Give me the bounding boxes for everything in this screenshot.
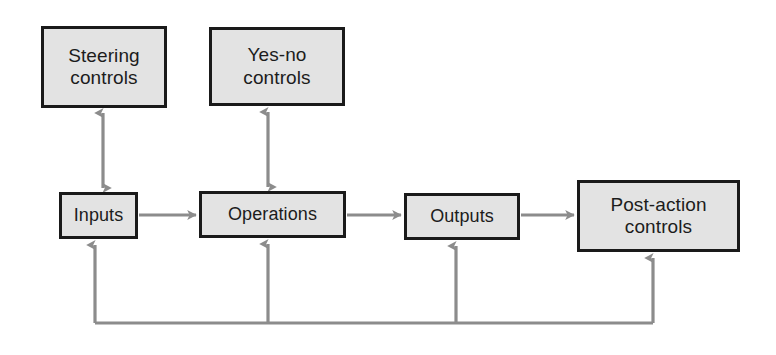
flow-diagram: Steering controls Yes-no controls Inputs… <box>0 0 776 355</box>
node-steering-controls[interactable]: Steering controls <box>41 26 167 108</box>
node-yes-no-controls-label: Yes-no controls <box>239 44 314 89</box>
node-outputs[interactable]: Outputs <box>404 193 520 240</box>
node-steering-controls-label: Steering controls <box>64 45 144 90</box>
node-inputs-label: Inputs <box>70 205 128 226</box>
node-yes-no-controls[interactable]: Yes-no controls <box>209 27 345 106</box>
node-post-action-controls[interactable]: Post-action controls <box>577 180 740 252</box>
node-post-action-controls-label: Post-action controls <box>606 194 710 239</box>
node-outputs-label: Outputs <box>426 206 498 227</box>
node-operations[interactable]: Operations <box>199 191 346 238</box>
node-inputs[interactable]: Inputs <box>59 192 138 239</box>
node-operations-label: Operations <box>224 204 321 225</box>
